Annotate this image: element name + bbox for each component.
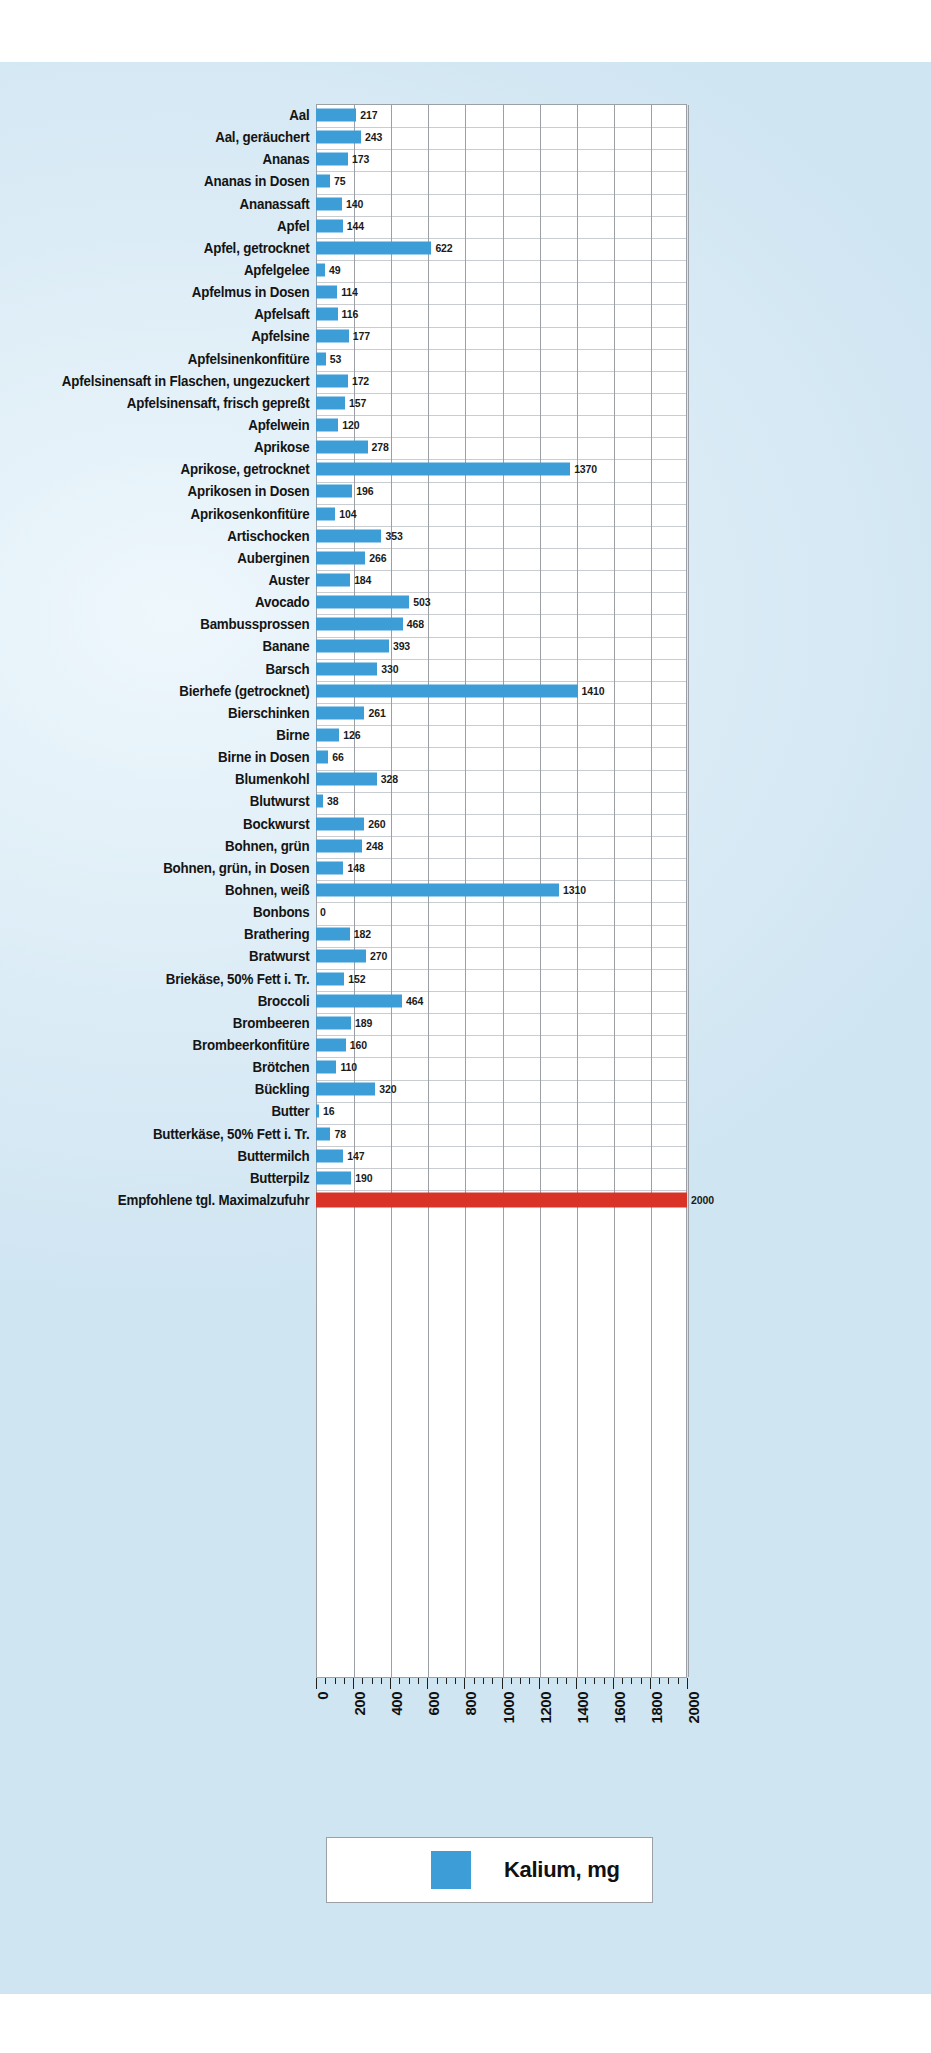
bar-value-label: 248 [366,840,383,852]
row-label: Broccoli [25,993,316,1009]
reference-bar [316,1192,687,1207]
row-label: Apfel, getrocknet [25,240,316,256]
bar-value-label: 120 [342,419,359,431]
minor-tick [594,1678,595,1684]
chart-row: Bückling320 [0,1078,931,1100]
bottom-white-margin [0,1994,931,2053]
row-plot: 189 [316,1012,687,1034]
major-tick [427,1678,428,1689]
value-bar [316,950,366,963]
bar-value-label: 148 [347,862,364,874]
top-white-margin [0,0,931,62]
minor-tick [566,1678,567,1684]
bar-value-label: 320 [379,1083,396,1095]
value-bar [316,197,342,210]
row-plot: 160 [316,1034,687,1056]
bar-value-label: 126 [343,729,360,741]
row-plot: 172 [316,370,687,392]
bar-value-label: 152 [348,973,365,985]
row-label: Bohnen, grün, in Dosen [25,860,316,876]
minor-tick [335,1678,336,1684]
chart-row: Apfelwein120 [0,414,931,436]
chart-row: Auberginen266 [0,547,931,569]
value-bar [316,1149,343,1162]
chart-row: Apfelsaft116 [0,303,931,325]
row-label: Brathering [25,926,316,942]
row-label: Apfelsinensaft in Flaschen, ungezuckert [25,373,316,389]
row-label: Birne [25,727,316,743]
row-label: Brombeeren [25,1015,316,1031]
bar-value-label: 78 [334,1128,345,1140]
major-tick [316,1678,317,1689]
value-bar [316,795,323,808]
bar-value-label: 177 [353,330,370,342]
chart-row: Aprikose278 [0,436,931,458]
chart-row: Brathering182 [0,923,931,945]
major-tick [576,1678,577,1689]
minor-tick [455,1678,456,1684]
x-tick-label: 1600 [610,1692,627,1723]
minor-tick [483,1678,484,1684]
major-tick [464,1678,465,1689]
major-tick [613,1678,614,1689]
chart-row: Bierhefe (getrocknet)1410 [0,680,931,702]
minor-tick [678,1678,679,1684]
row-label: Buttermilch [25,1148,316,1164]
x-tick-label: 2000 [685,1692,702,1723]
row-label: Blumenkohl [25,771,316,787]
major-tick [390,1678,391,1689]
chart-row: Brombeerkonfitüre160 [0,1034,931,1056]
value-bar [316,684,578,697]
row-label: Briekäse, 50% Fett i. Tr. [25,971,316,987]
value-bar [316,551,365,564]
bar-value-label: 38 [327,795,338,807]
major-tick [502,1678,503,1689]
x-tick-label: 1800 [647,1692,664,1723]
value-bar [316,330,349,343]
bar-value-label: 140 [346,198,363,210]
chart-row: Bohnen, weiß1310 [0,879,931,901]
x-tick-label: 200 [351,1692,368,1716]
row-plot: 110 [316,1056,687,1078]
row-plot: 140 [316,193,687,215]
chart-row: Aprikosenkonfitüre104 [0,503,931,525]
chart-row: Buttermilch147 [0,1145,931,1167]
value-bar [316,219,343,232]
value-bar [316,463,570,476]
minor-tick [548,1678,549,1684]
bar-value-label: 196 [356,485,373,497]
chart-row: Blumenkohl328 [0,768,931,790]
chart-row: Aprikose, getrocknet1370 [0,458,931,480]
bar-value-label: 243 [365,131,382,143]
row-plot: 260 [316,813,687,835]
bar-value-label: 116 [342,308,359,320]
chart-row: Brombeeren189 [0,1012,931,1034]
bar-value-label: 1310 [563,884,586,896]
minor-tick [520,1678,521,1684]
row-plot: 217 [316,104,687,126]
value-bar [316,994,402,1007]
minor-tick [372,1678,373,1684]
x-axis-tick-labels: 0200400600800100012001400160018002000 [316,1692,687,1792]
minor-tick [437,1678,438,1684]
row-plot: 152 [316,967,687,989]
row-label: Apfelsinensaft, frisch gepreßt [25,395,316,411]
row-plot: 196 [316,480,687,502]
value-bar [316,817,364,830]
chart-row: Apfel144 [0,215,931,237]
bar-value-label: 261 [368,707,385,719]
row-plot: 75 [316,170,687,192]
bar-value-label: 66 [332,751,343,763]
row-plot: 622 [316,237,687,259]
row-label: Butter [25,1103,316,1119]
row-plot: 157 [316,392,687,414]
minor-tick [492,1678,493,1684]
row-plot: 120 [316,414,687,436]
row-plot: 278 [316,436,687,458]
major-tick [650,1678,651,1689]
bar-value-label: 217 [360,109,377,121]
value-bar [316,574,350,587]
value-bar [316,264,325,277]
row-plot: 126 [316,724,687,746]
value-bar [316,153,348,166]
